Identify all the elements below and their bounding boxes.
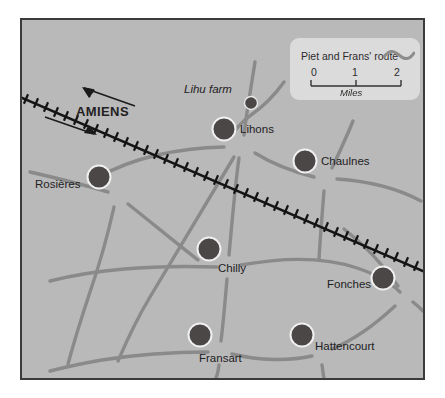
- legend-panel: Piet and Frans' route 0 1 2 Miles: [290, 38, 420, 100]
- road-fonches-southeast: [413, 302, 423, 311]
- road-lihons-chilly: [229, 158, 239, 255]
- scale-unit-label: Miles: [340, 88, 362, 98]
- label-amiens: AMIENS: [76, 105, 129, 118]
- label-fonches: Fonches: [327, 279, 371, 291]
- road-fransart-west: [50, 352, 208, 371]
- label-lihons: Lihons: [240, 124, 274, 136]
- map-frame: Piet and Frans' route 0 1 2 Miles Lihu f…: [20, 18, 425, 380]
- road-fransart-hattencourt: [232, 354, 312, 360]
- road-lihons-southwest: [118, 157, 234, 361]
- label-chilly: Chilly: [218, 263, 246, 275]
- road-rosieres-lihons: [99, 147, 224, 177]
- legend-route-swatch-icon: [383, 48, 415, 62]
- road-fransart-south: [216, 365, 219, 378]
- node-chilly: [198, 238, 221, 261]
- node-fransart: [189, 324, 212, 347]
- scale-tick-0: 0: [311, 67, 317, 78]
- screenshot-root: Piet and Frans' route 0 1 2 Miles Lihu f…: [0, 0, 445, 398]
- road-chilly-west: [50, 266, 217, 281]
- label-hattencourt: Hattencourt: [315, 341, 374, 353]
- node-chaulnes: [294, 150, 317, 173]
- node-lihons: [213, 118, 236, 141]
- scale-tick-2: 2: [394, 67, 400, 78]
- node-lihu-farm: [245, 97, 258, 110]
- label-rosieres: Rosières: [35, 179, 80, 191]
- road-hattencourt-south: [322, 365, 324, 378]
- label-chaulnes: Chaulnes: [321, 156, 370, 168]
- road-chilly-south: [221, 279, 227, 341]
- road-rosieres-south: [68, 207, 114, 364]
- node-fonches: [372, 267, 395, 290]
- label-fransart: Fransart: [199, 353, 242, 365]
- node-rosieres: [88, 166, 111, 189]
- label-lihu-farm: Lihu farm: [184, 84, 232, 96]
- node-hattencourt: [291, 324, 314, 347]
- road-chaulnes-east: [337, 179, 421, 201]
- scale-tick-1: 1: [352, 67, 358, 78]
